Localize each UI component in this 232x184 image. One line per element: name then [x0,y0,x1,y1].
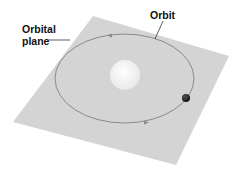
planet [182,94,190,102]
sun [110,60,140,90]
orbital-plane-label-line1: Orbital [22,23,56,35]
orbital-plane-label: Orbital plane [22,23,56,47]
orbital-plane-label-line2: plane [22,35,56,47]
orbit-label: Orbit [150,9,175,21]
